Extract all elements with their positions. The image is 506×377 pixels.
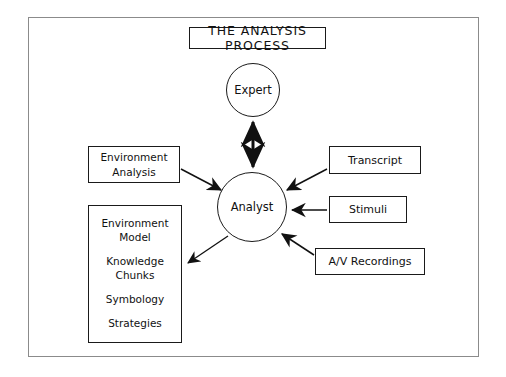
diagram-title: THE ANALYSIS PROCESS xyxy=(189,27,326,49)
node-environment-analysis-line2: Analysis xyxy=(100,165,167,179)
edge-environment-analysis-analyst xyxy=(181,169,221,190)
node-environment-analysis-line1: Environment xyxy=(100,150,167,164)
list-item-knowledge-chunks-line1: Knowledge xyxy=(89,255,181,269)
node-model-list: Environment Model Knowledge Chunks Symbo… xyxy=(88,205,182,343)
node-transcript: Transcript xyxy=(329,146,421,174)
node-expert: Expert xyxy=(226,63,280,117)
node-stimuli-label: Stimuli xyxy=(349,203,387,216)
node-stimuli: Stimuli xyxy=(329,196,407,223)
list-item-knowledge-chunks-line2: Chunks xyxy=(89,269,181,283)
node-analyst-label: Analyst xyxy=(231,200,274,214)
list-item-environment-model: Environment Model xyxy=(89,217,181,244)
list-item-strategies: Strategies xyxy=(89,317,181,331)
diagram-title-label: THE ANALYSIS PROCESS xyxy=(190,23,325,53)
edge-transcript-analyst xyxy=(287,169,327,190)
list-item-environment-model-line2: Model xyxy=(89,231,181,245)
list-item-environment-model-line1: Environment xyxy=(89,217,181,231)
node-analyst: Analyst xyxy=(217,172,287,242)
list-item-symbology: Symbology xyxy=(89,293,181,307)
node-av-recordings: A/V Recordings xyxy=(315,248,425,275)
edge-av-recordings-analyst xyxy=(282,234,314,255)
node-expert-label: Expert xyxy=(234,83,272,97)
node-av-recordings-label: A/V Recordings xyxy=(329,255,412,268)
edge-analyst-environment-model xyxy=(188,236,228,263)
node-transcript-label: Transcript xyxy=(348,154,402,167)
analysis-process-diagram: THE ANALYSIS PROCESS Expert Analyst Envi… xyxy=(0,0,506,377)
list-item-knowledge-chunks: Knowledge Chunks xyxy=(89,255,181,282)
node-environment-analysis: Environment Analysis xyxy=(88,146,180,183)
